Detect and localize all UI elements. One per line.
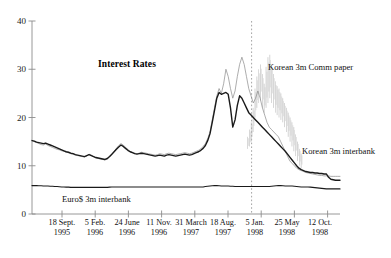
series-line-euro-3m-interbank [32, 186, 340, 189]
y-tick-label-40: 40 [8, 17, 26, 26]
x-tick-label-8: 12 Oct. 1998 [298, 219, 342, 237]
series-annotation-euro-interbank: Euro$ 3m interbank [62, 195, 131, 204]
y-tick-label-30: 30 [8, 65, 26, 74]
chart-title: Interest Rates [98, 60, 156, 70]
series-annotation-comm-paper: Korean 3m Comm paper [268, 63, 353, 72]
x-tick-label-7-line1: 25 May [274, 218, 299, 227]
y-tick-label-20: 20 [8, 114, 26, 123]
chart-figure: 40 30 20 10 0 Interest Rates Korean 3m C… [0, 0, 391, 258]
y-tick-label-10: 10 [8, 162, 26, 171]
x-tick-label-8-line1: 12 Oct. [308, 218, 332, 227]
series-line-korean-3m-comm-paper [32, 57, 340, 176]
y-tick-label-0: 0 [8, 210, 26, 219]
x-tick-label-8-line2: 1998 [298, 229, 342, 237]
series-annotation-korean-interbank: Korean 3m interbank [302, 147, 375, 156]
x-tick-label-6-line1: 5 Jan. [245, 218, 264, 227]
x-tick-label-5-line1: 18 Aug. [210, 218, 236, 227]
